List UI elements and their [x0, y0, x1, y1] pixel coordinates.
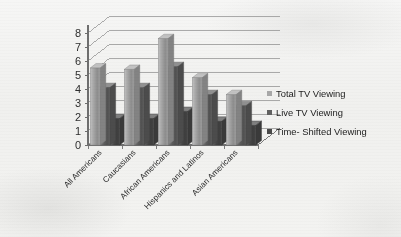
legend-item-total-tv-viewing[interactable]: Total TV Viewing	[267, 88, 345, 99]
bar[interactable]	[226, 90, 242, 145]
y-axis-tick-label: 6	[75, 55, 81, 67]
y-axis-tick-label: 1	[75, 125, 81, 137]
legend-item-live-tv-viewing[interactable]: Live TV Viewing	[267, 107, 343, 118]
bar-series-group	[90, 34, 261, 145]
y-axis: 012345678	[75, 25, 88, 151]
x-axis-labels: All AmericansCaucasiansAfrican Americans…	[62, 148, 239, 211]
y-axis-tick-label: 5	[75, 69, 81, 81]
bar[interactable]	[158, 34, 174, 145]
x-axis-category-label: Caucasians	[101, 148, 138, 185]
y-axis-tick-label: 8	[75, 27, 81, 39]
bar[interactable]	[124, 65, 140, 145]
y-axis-tick-label: 0	[75, 139, 81, 151]
bar[interactable]	[90, 64, 106, 145]
x-axis-category-label: All Americans	[62, 148, 103, 189]
chart-page: 012345678All AmericansCaucasiansAfrican …	[0, 0, 401, 237]
y-axis-tick-label: 4	[75, 83, 81, 95]
legend-swatch-time-shifted-viewing	[267, 129, 272, 134]
y-axis-tick-label: 3	[75, 97, 81, 109]
legend-item-time-shifted-viewing[interactable]: Time- Shifted Viewing	[267, 126, 367, 137]
legend-label-total-tv-viewing: Total TV Viewing	[276, 88, 345, 99]
legend-swatch-total-tv-viewing	[267, 91, 272, 96]
legend-label-live-tv-viewing: Live TV Viewing	[276, 107, 343, 118]
y-axis-tick-label: 7	[75, 41, 81, 53]
bar[interactable]	[192, 73, 208, 145]
legend-label-time-shifted-viewing: Time- Shifted Viewing	[276, 126, 367, 137]
legend-swatch-live-tv-viewing	[267, 110, 272, 115]
chart-canvas: 012345678All AmericansCaucasiansAfrican …	[0, 0, 401, 237]
x-axis-category-label: Hispanics and Latinos	[143, 148, 206, 211]
y-axis-tick-label: 2	[75, 111, 81, 123]
bar-chart: 012345678All AmericansCaucasiansAfrican …	[0, 0, 401, 237]
